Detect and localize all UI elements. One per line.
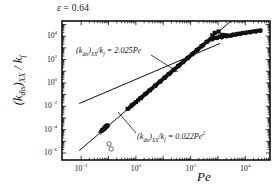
data-point [201, 43, 205, 47]
x-tick-label: 102 [176, 165, 206, 173]
data-point [248, 30, 252, 34]
quadratic-fit-coefficient: 0.022 [175, 132, 193, 141]
y-tick-label: 10−4 [31, 126, 57, 134]
data-point [205, 39, 209, 43]
data-point [191, 51, 195, 55]
data-point [224, 34, 228, 38]
data-point [243, 31, 247, 35]
data-point [196, 47, 200, 51]
data-point [131, 102, 135, 106]
y-tick-label: 10−6 [31, 149, 57, 157]
data-point [215, 36, 219, 40]
y-axis-label: (kdis)XX / kf [12, 10, 25, 150]
scatter-plot-figure: ε = 0.64 (kdis)XX / kf Pe (kdis)XX/kf = … [0, 0, 280, 193]
data-point [154, 83, 158, 87]
data-point [159, 79, 163, 83]
data-point [220, 33, 224, 37]
data-point [149, 87, 153, 91]
data-point [182, 59, 186, 63]
quadratic-fit-exponent: 2 [202, 130, 205, 136]
data-point [210, 37, 214, 41]
data-point [168, 71, 172, 75]
y-tick-label: 100 [31, 79, 57, 87]
y-tick-label: 104 [31, 32, 57, 40]
epsilon-value: 0.64 [72, 3, 89, 13]
quadratic-fit-equation: (kdis)XX/kf = 0.022Pe2 [137, 133, 205, 141]
linear-fit-coefficient: 2.025 [114, 46, 132, 55]
data-point [178, 63, 182, 67]
data-point [216, 29, 220, 33]
y-axis-label-text: (kdis)XX / kf [11, 55, 25, 105]
data-point [187, 55, 191, 59]
data-point [145, 91, 149, 95]
y-tick-label: 10−2 [31, 102, 57, 110]
epsilon-equals: = [61, 3, 72, 13]
x-tick-label: 100 [121, 165, 151, 173]
data-point [229, 33, 233, 37]
data-point [210, 33, 214, 37]
x-tick-label: 104 [230, 165, 260, 173]
data-point [254, 29, 258, 33]
x-tick-label: 10−2 [66, 165, 96, 173]
data-point [233, 32, 237, 36]
data-point [136, 98, 140, 102]
linear-fit-equation: (kdis)XX/kf = 2.025Pe [76, 47, 141, 55]
data-point [258, 28, 262, 32]
data-point [163, 75, 167, 79]
epsilon-annotation: ε = 0.64 [57, 4, 89, 14]
y-tick-label: 102 [31, 56, 57, 64]
data-point [140, 95, 144, 99]
data-point [238, 32, 242, 36]
